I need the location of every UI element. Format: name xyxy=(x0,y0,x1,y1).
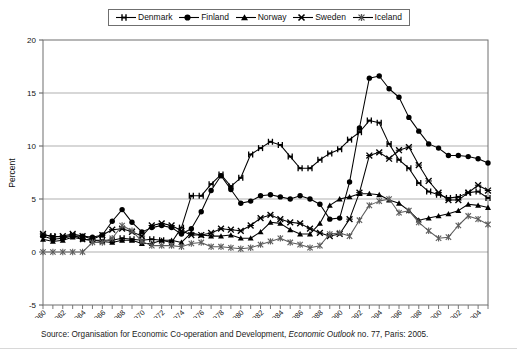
svg-text:1976: 1976 xyxy=(188,308,206,318)
legend-item-iceland: Iceland xyxy=(353,12,402,23)
legend-item-denmark: Denmark xyxy=(116,12,172,23)
source-suffix: no. 77, Paris: 2005. xyxy=(355,330,428,339)
source-prefix: Source: Organisation for Economic Co-ope… xyxy=(41,330,289,339)
svg-text:5: 5 xyxy=(32,195,37,204)
line-chart: Percent -505101520 196019621964196619681… xyxy=(0,28,517,318)
svg-text:0: 0 xyxy=(32,248,37,257)
legend-item-finland: Finland xyxy=(179,12,229,23)
series-iceland xyxy=(40,196,490,255)
svg-text:1970: 1970 xyxy=(129,308,147,318)
svg-text:1966: 1966 xyxy=(89,308,107,318)
source-italic-title: Economic Outlook xyxy=(289,330,355,339)
chart-plot-svg: -505101520 19601962196419661968197019721… xyxy=(0,28,517,318)
svg-text:2002: 2002 xyxy=(445,308,463,318)
svg-text:1996: 1996 xyxy=(386,308,404,318)
plot-frame xyxy=(43,40,488,305)
legend-label-norway: Norway xyxy=(258,13,287,22)
sweden-x-marker-icon xyxy=(293,12,313,23)
source-caption: Source: Organisation for Economic Co-ope… xyxy=(41,330,428,339)
svg-text:1988: 1988 xyxy=(307,308,325,318)
legend-item-norway: Norway xyxy=(236,12,287,23)
svg-text:15: 15 xyxy=(27,89,36,98)
finland-circle-marker-icon xyxy=(179,12,199,23)
svg-text:1990: 1990 xyxy=(327,308,345,318)
svg-text:1968: 1968 xyxy=(109,308,127,318)
svg-text:2000: 2000 xyxy=(425,308,443,318)
legend-label-sweden: Sweden xyxy=(315,13,346,22)
iceland-asterisk-marker-icon xyxy=(353,12,373,23)
svg-text:1986: 1986 xyxy=(287,308,305,318)
svg-text:1962: 1962 xyxy=(50,308,68,318)
y-axis-ticks: -505101520 xyxy=(27,36,43,310)
legend-label-finland: Finland xyxy=(201,13,229,22)
svg-text:-5: -5 xyxy=(29,301,37,310)
svg-text:1992: 1992 xyxy=(346,308,364,318)
svg-text:1998: 1998 xyxy=(406,308,424,318)
legend-label-denmark: Denmark xyxy=(138,13,172,22)
legend-label-iceland: Iceland xyxy=(375,13,402,22)
svg-text:1974: 1974 xyxy=(168,308,186,318)
x-axis-ticks: 1960196219641966196819701972197419761978… xyxy=(30,305,488,318)
norway-triangle-marker-icon xyxy=(236,12,256,23)
chart-legend: Denmark Finland Norway Sweden Iceland xyxy=(108,9,410,26)
svg-text:1964: 1964 xyxy=(69,308,87,318)
svg-text:1972: 1972 xyxy=(149,308,167,318)
legend-item-sweden: Sweden xyxy=(293,12,346,23)
svg-text:1994: 1994 xyxy=(366,308,384,318)
svg-text:10: 10 xyxy=(27,142,36,151)
svg-text:1978: 1978 xyxy=(208,308,226,318)
svg-text:1982: 1982 xyxy=(247,308,265,318)
bottom-rule xyxy=(0,348,517,349)
data-series-layer xyxy=(40,73,491,255)
svg-text:20: 20 xyxy=(27,36,36,45)
svg-text:2004: 2004 xyxy=(465,308,483,318)
svg-text:1980: 1980 xyxy=(228,308,246,318)
svg-text:1984: 1984 xyxy=(267,308,285,318)
denmark-plus-marker-icon xyxy=(116,12,136,23)
y-axis-label: Percent xyxy=(7,143,17,203)
